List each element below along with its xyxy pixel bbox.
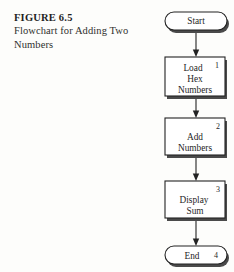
flow-node-display-label-line-2: Sum [186, 206, 204, 216]
flowchart-diagram: Start 1 Load Hex Numbers 2 Add Numbers [152, 0, 234, 272]
flow-node-add-label-line-2: Numbers [178, 143, 212, 153]
flow-node-display[interactable]: 3 Display Sum [165, 181, 227, 221]
scanned-page: FIGURE 6.5 Flowchart for Adding Two Numb… [0, 0, 234, 272]
flow-node-load-label-line-3: Numbers [178, 85, 212, 95]
flow-node-display-step: 3 [216, 185, 220, 194]
figure-description-line-2: Numbers [14, 38, 140, 52]
connector-load-to-add [193, 96, 199, 118]
connector-start-to-load [193, 30, 199, 57]
flow-node-add[interactable]: 2 Add Numbers [165, 118, 227, 158]
flow-node-add-step: 2 [216, 122, 220, 131]
flow-node-end[interactable]: End 4 [165, 246, 229, 267]
flow-node-end-step: 4 [214, 251, 218, 260]
flow-node-load-step: 1 [215, 61, 219, 70]
flow-node-load-label-line-1: Load [183, 63, 202, 73]
flow-node-load-label-line-2: Hex [187, 74, 203, 84]
flow-node-start[interactable]: Start [165, 12, 229, 33]
figure-description-line-1: Flowchart for Adding Two [14, 24, 140, 38]
connector-add-to-display [193, 155, 199, 181]
flow-node-end-label: End [185, 251, 200, 261]
flow-node-add-label-line-1: Add [187, 132, 203, 142]
flow-node-start-label: Start [187, 16, 205, 26]
figure-label: FIGURE 6.5 [14, 11, 140, 24]
flow-node-display-label-line-1: Display [180, 195, 209, 205]
figure-caption: FIGURE 6.5 Flowchart for Adding Two Numb… [14, 11, 140, 51]
flow-node-load[interactable]: 1 Load Hex Numbers [165, 57, 227, 99]
connector-display-to-end [193, 218, 199, 246]
